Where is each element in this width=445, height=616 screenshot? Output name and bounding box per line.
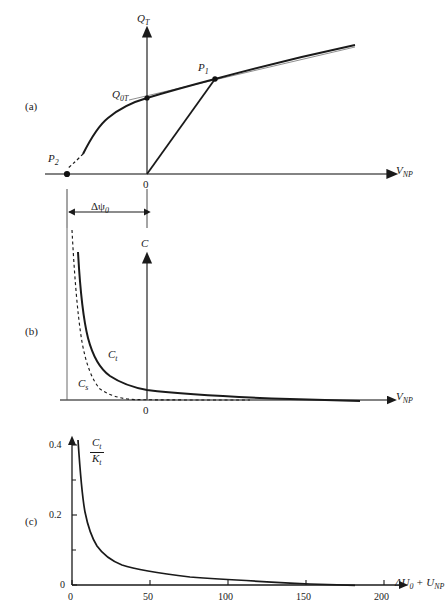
panel-c-xtick-100: 100 <box>218 591 233 602</box>
panel-a-label-q0t: Q0T <box>112 88 128 103</box>
panel-c-ytick-0: 0 <box>60 579 65 590</box>
panel-a-point-q0t <box>144 95 149 100</box>
panel-c-y-axis-denominator: Kt <box>90 453 104 468</box>
panel-a-q0t-symbol: Q <box>112 88 120 100</box>
panel-c-x-axis-symbol-2: + U <box>413 576 434 588</box>
figure-svg <box>0 0 445 616</box>
panel-c-x-axis-subscript-2: NP <box>434 582 444 591</box>
panel-c-y-axis-label: Ct Kt <box>90 437 104 467</box>
panel-a-x-axis-subscript: NP <box>403 170 413 179</box>
delta-psi-symbol: Δψ <box>91 200 105 212</box>
panel-c-x-axis-symbol-1: ΔU <box>395 576 409 588</box>
panel-b-y-axis-symbol: C <box>141 237 148 249</box>
panel-a-x-axis-symbol: V <box>396 164 403 176</box>
panel-c-ytick-0.4: 0.4 <box>49 439 62 450</box>
panel-b-x-axis-label: VNP <box>396 390 413 405</box>
panel-c-xtick-50: 50 <box>143 591 153 602</box>
panel-a-y-axis-subscript: T <box>145 18 149 27</box>
delta-psi-0-label: Δψ0 <box>91 200 109 215</box>
panel-c-y-axis-numerator: Ct <box>90 437 104 453</box>
panel-b-graph <box>60 228 388 401</box>
panel-b-x-axis-symbol: V <box>396 390 403 402</box>
panel-c-xtick-150: 150 <box>296 591 311 602</box>
panel-c-curve-ct-kt <box>78 440 355 585</box>
panel-c-y-ticks <box>72 445 77 585</box>
panel-b-curve-cs <box>72 230 250 400</box>
panel-a-p2-symbol: P <box>48 152 55 164</box>
panel-b-y-axis-label: C <box>141 237 148 249</box>
panel-a-y-axis-symbol: Q <box>137 12 145 24</box>
panel-a-x-axis-label: VNP <box>396 164 413 179</box>
panel-a-point-p2 <box>64 171 70 177</box>
panel-c-ytick-0.2: 0.2 <box>49 509 62 520</box>
panel-b-x-axis-subscript: NP <box>403 396 413 405</box>
panel-b-origin-label: 0 <box>143 404 149 416</box>
panel-c-graph <box>72 440 400 585</box>
panel-a-origin-label: 0 <box>143 178 149 190</box>
panel-a-point-p1 <box>212 76 217 81</box>
panel-c-xtick-0: 0 <box>68 591 73 602</box>
panel-a-p1-subscript: 1 <box>205 67 209 76</box>
delta-psi-subscript: 0 <box>105 206 109 215</box>
panel-a-y-axis-label: QT <box>137 12 149 27</box>
panel-b-cs-subscript: s <box>85 383 88 392</box>
panel-c-id: (c) <box>25 515 37 527</box>
panel-c-y-axis-fraction: Ct Kt <box>90 437 104 467</box>
panel-b-ct-subscript: t <box>115 354 117 363</box>
panel-a-tangent-line <box>129 47 355 100</box>
panel-b-label-ct: Ct <box>108 348 118 363</box>
panel-a-label-p1: P1 <box>198 61 209 76</box>
panel-a-p1-symbol: P <box>198 61 205 73</box>
panel-c-denominator-subscript: t <box>99 458 101 467</box>
panel-a-id: (a) <box>25 100 37 112</box>
panel-c-x-axis-label: ΔU0 + UNP <box>395 576 444 591</box>
panel-a-graph <box>45 36 388 177</box>
panel-a-q0t-subscript: 0T <box>120 94 128 103</box>
panel-a-curve-dashed-extension <box>67 154 83 169</box>
panel-c-xtick-200: 200 <box>374 591 389 602</box>
panel-b-id: (b) <box>25 325 38 337</box>
panel-a-label-p2: P2 <box>48 152 59 167</box>
panel-c-numerator-subscript: t <box>99 442 101 451</box>
panel-b-label-cs: Cs <box>78 377 88 392</box>
panel-a-p2-subscript: 2 <box>55 158 59 167</box>
figure-canvas: (a) QT VNP 0 Q0T P1 P2 Δψ0 (b) C VNP 0 C… <box>0 0 445 616</box>
panel-b-curve-ct <box>78 252 360 401</box>
